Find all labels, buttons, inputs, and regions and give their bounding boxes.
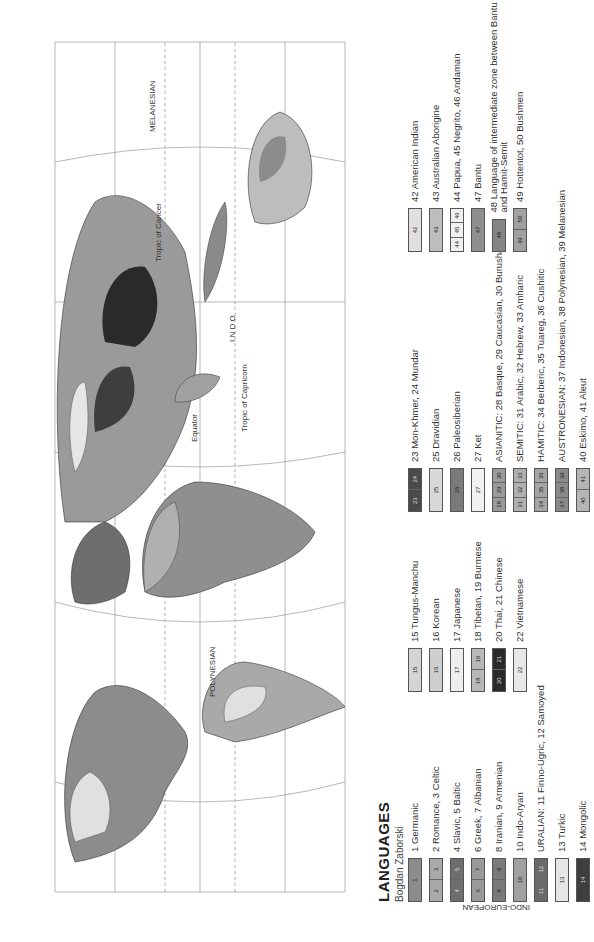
legend-label: 14 Mongolic — [578, 801, 588, 852]
legend-label: 17 Japanese — [452, 588, 462, 642]
legend-item: 1313 Turkic — [552, 685, 572, 902]
legend-label: 42 American Indian — [410, 121, 420, 202]
swatch-number: 32 — [514, 482, 526, 496]
legend-item: 11 Germanic — [405, 685, 425, 902]
swatch-number: 12 — [535, 859, 547, 880]
legend-label: 15 Tungus-Manchu — [410, 561, 420, 642]
swatch-number: 13 — [556, 859, 568, 901]
legend-swatch: 27 — [471, 468, 485, 512]
swatch-number: 49 — [514, 230, 526, 252]
legend-label: 43 Australian Aborigine — [431, 105, 441, 202]
legend-label: SEMITIC: 31 Arabic, 32 Hebrew, 33 Amhari… — [515, 275, 525, 462]
legend-swatch: 2021 — [492, 648, 506, 692]
legend-label: 18 Tibetan, 19 Burmese — [473, 541, 483, 642]
legend-swatch: 67 — [471, 858, 485, 902]
swatch-number: 18 — [472, 670, 484, 692]
legend-label: 25 Dravidian — [431, 409, 441, 462]
legend-swatch: 10 — [513, 858, 527, 902]
map-author: Bogdan Zaborski — [394, 826, 405, 902]
legend-swatch: 15 — [408, 648, 422, 692]
legend-swatch: 25 — [429, 468, 443, 512]
legend-swatch: 47 — [471, 208, 485, 252]
swatch-number: 4 — [451, 880, 463, 902]
legend-swatch: 23 — [429, 858, 443, 902]
legend-swatch: 343536 — [534, 468, 548, 512]
legend-label: ASIANITIC: 28 Basque, 29 Caucasian, 30 B… — [494, 236, 504, 462]
legend-swatch: 16 — [429, 648, 443, 692]
legend-swatch: 1112 — [534, 858, 548, 902]
label-tropic-cancer: Tropic of Cancer — [154, 203, 163, 262]
swatch-number: 23 — [409, 490, 421, 512]
legend-item: 4848 Language of intermediate zone betwe… — [489, 0, 509, 252]
swatch-number: 24 — [409, 469, 421, 490]
swatch-number: 2 — [430, 880, 442, 902]
legend-swatch: 1 — [408, 858, 422, 902]
swatch-number: 47 — [472, 209, 484, 251]
legend-swatch: 48 — [492, 219, 506, 252]
map-graphic: POLYNESIAN MELANESIAN Equator Tropic of … — [35, 22, 365, 902]
legend-item: 4343 Australian Aborigine — [426, 0, 446, 252]
legend-swatch: 89 — [492, 858, 506, 902]
swatch-number: 1 — [409, 859, 421, 901]
swatch-number: 34 — [535, 497, 547, 511]
swatch-number: 46 — [451, 209, 463, 222]
swatch-number: 21 — [493, 649, 505, 670]
swatch-number: 15 — [409, 649, 421, 691]
legend-label: 6 Greek, 7 Albanian — [473, 769, 483, 852]
legend-column-2: 1515 Tungus-Manchu1616 Korean1717 Japane… — [405, 541, 531, 692]
legend-item: 44454644 Papua, 45 Negrito, 46 Andaman — [447, 0, 467, 252]
swatch-number: 39 — [556, 469, 568, 482]
legend-item: 1414 Mongolic — [573, 685, 593, 902]
legend-label: 47 Bantu — [473, 164, 483, 202]
swatch-number: 43 — [430, 209, 442, 251]
label-equator: Equator — [190, 414, 199, 442]
swatch-number: 42 — [409, 209, 421, 251]
swatch-number: 35 — [535, 482, 547, 496]
swatch-number: 36 — [535, 469, 547, 482]
swatch-number: 45 — [451, 222, 463, 236]
swatch-number: 50 — [514, 209, 526, 230]
swatch-number: 8 — [493, 880, 505, 902]
legend-label: 13 Turkic — [557, 813, 567, 852]
legend-swatch: 4950 — [513, 208, 527, 252]
legend-item: 454 Slavic, 5 Baltic — [447, 685, 467, 902]
swatch-number: 10 — [514, 859, 526, 901]
legend-label: 20 Thai, 21 Chinese — [494, 557, 504, 642]
legend-label: 23 Mon-Khmer, 24 Mundar — [410, 349, 420, 462]
legend-label: URALIAN: 11 Finno-Ugric, 12 Samoyed — [536, 685, 546, 852]
legend-item: 676 Greek, 7 Albanian — [468, 685, 488, 902]
legend-swatch: 373839 — [555, 468, 569, 512]
legend-item: 1515 Tungus-Manchu — [405, 541, 425, 692]
legend-item: 495049 Hottentot, 50 Bushmen — [510, 0, 530, 252]
legend-swatch: 1819 — [471, 648, 485, 692]
legend-label: 10 Indo-Aryan — [515, 792, 525, 852]
legend-swatch: 45 — [450, 858, 464, 902]
legend-swatch: 26 — [450, 468, 464, 512]
swatch-number: 19 — [472, 649, 484, 670]
map-title: LANGUAGES — [375, 802, 392, 902]
legend-item: 2222 Vietnamese — [510, 541, 530, 692]
swatch-number: 48 — [493, 220, 505, 251]
legend-label: 49 Hottentot, 50 Bushmen — [515, 92, 525, 202]
swatch-number: 28 — [493, 497, 505, 511]
label-tropic-capricorn: Tropic of Capricorn — [240, 364, 249, 432]
legend-swatch: 282930 — [492, 468, 506, 512]
legend-label: 27 Ket — [473, 435, 483, 462]
legend-label: 22 Vietnamese — [515, 579, 525, 642]
swatch-number: 26 — [451, 469, 463, 511]
swatch-number: 20 — [493, 670, 505, 692]
swatch-number: 38 — [556, 482, 568, 496]
swatch-number: 37 — [556, 497, 568, 511]
swatch-number: 33 — [514, 469, 526, 482]
swatch-number: 9 — [493, 859, 505, 880]
legend-item: 404140 Eskimo, 41 Aleut — [573, 190, 593, 512]
swatch-number: 25 — [430, 469, 442, 511]
legend-column-1: 11 Germanic232 Romance, 3 Celtic454 Slav… — [405, 685, 594, 902]
legend-item: 373839AUSTRONESIAN: 37 Indonesian, 38 Po… — [552, 190, 572, 512]
legend-column-4: 4242 American Indian4343 Australian Abor… — [405, 0, 531, 252]
legend-label: 48 Language of intermediate zone between… — [489, 0, 509, 213]
swatch-number: 14 — [577, 859, 589, 901]
label-melanesian: MELANESIAN — [148, 80, 157, 132]
legend-swatch: 43 — [429, 208, 443, 252]
